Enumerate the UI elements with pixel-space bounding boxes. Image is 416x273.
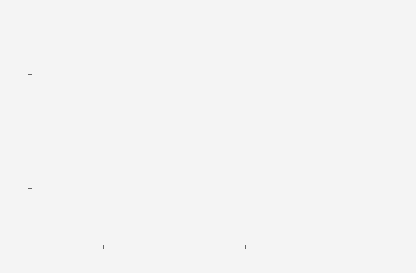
colorbar <box>335 18 347 245</box>
cell-truth1-pred0 <box>32 131 175 245</box>
ytick-mark <box>28 74 32 75</box>
cell-truth0-pred0 <box>32 17 175 131</box>
cell-truth1-pred1 <box>175 131 318 245</box>
cell-truth0-pred1 <box>175 17 318 131</box>
xtick-mark <box>245 245 246 249</box>
ytick-mark <box>28 188 32 189</box>
confusion-matrix-heatmap <box>32 17 317 245</box>
xtick-mark <box>103 245 104 249</box>
